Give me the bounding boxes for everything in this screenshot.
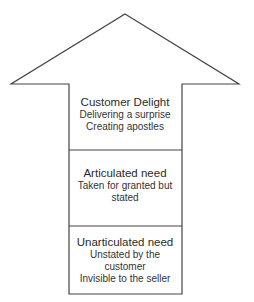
level-title: Articulated need bbox=[69, 167, 181, 180]
level-title: Customer Delight bbox=[69, 96, 181, 109]
level-customer-delight: Customer Delight Delivering a surprise C… bbox=[69, 96, 181, 133]
level-line: Taken for granted but bbox=[69, 180, 181, 192]
level-line: Creating apostles bbox=[69, 121, 181, 133]
level-line: customer bbox=[69, 261, 181, 273]
level-line: Invisible to the seller bbox=[69, 273, 181, 285]
level-line: stated bbox=[69, 192, 181, 204]
level-line: Unstated by the bbox=[69, 249, 181, 261]
level-line: Delivering a surprise bbox=[69, 109, 181, 121]
level-articulated-need: Articulated need Taken for granted but s… bbox=[69, 167, 181, 204]
level-title: Unarticulated need bbox=[69, 236, 181, 249]
level-unarticulated-need: Unarticulated need Unstated by the custo… bbox=[69, 236, 181, 285]
